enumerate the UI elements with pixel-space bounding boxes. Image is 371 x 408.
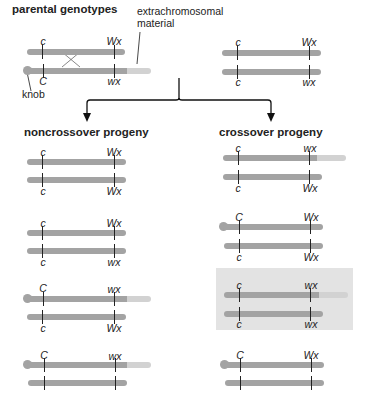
extrachromosomal-segment	[127, 362, 151, 368]
locus-tick	[114, 155, 115, 169]
locus-tick	[42, 155, 43, 169]
chromosome	[224, 243, 324, 249]
locus-tick	[114, 226, 115, 240]
chromosome	[27, 314, 127, 320]
chromosome-body	[28, 380, 127, 386]
chromosome	[23, 362, 153, 368]
locus-tick	[44, 376, 45, 390]
chromosome	[224, 311, 324, 317]
gene-label: c	[236, 319, 241, 330]
chromosome	[222, 69, 322, 75]
chromosome	[27, 230, 127, 236]
chromosome-body	[27, 296, 127, 302]
chromosome-body	[224, 362, 324, 368]
gene-label: c	[235, 77, 240, 88]
gene-label: Wx	[302, 183, 317, 194]
chromosome	[27, 49, 127, 55]
chromosome-body	[27, 68, 127, 74]
connector-lines	[0, 0, 371, 408]
chromosome	[224, 292, 349, 298]
locus-tick	[115, 376, 116, 390]
locus-tick	[311, 376, 312, 390]
extrachromosomal-segment	[319, 292, 348, 298]
locus-tick	[42, 45, 43, 59]
locus-tick	[240, 358, 241, 372]
locus-tick	[240, 376, 241, 390]
chromosome-body	[223, 224, 323, 230]
chromosome	[27, 177, 127, 183]
chromosome	[28, 380, 128, 386]
gene-label: C	[39, 76, 47, 87]
chromosome	[219, 224, 329, 230]
locus-tick	[114, 45, 115, 59]
gene-label: c	[235, 183, 240, 194]
extrachromosomal-segment	[127, 68, 151, 74]
gene-label: c	[40, 323, 45, 334]
locus-tick	[238, 151, 239, 165]
locus-tick	[239, 220, 240, 234]
chromosome	[23, 68, 153, 74]
locus-tick	[239, 288, 240, 302]
chromosome-body	[27, 362, 127, 368]
gene-label: wx	[303, 77, 316, 88]
gene-label: Wx	[106, 186, 121, 197]
gene-label: wx	[108, 257, 121, 268]
gene-label: wx	[305, 319, 318, 330]
locus-tick	[43, 292, 44, 306]
gene-label: Wx	[303, 252, 318, 263]
gene-label: c	[236, 252, 241, 263]
chromosome	[27, 248, 127, 254]
extrachromosomal-segment	[127, 296, 151, 302]
chromosome	[27, 159, 127, 165]
chromosome	[23, 296, 153, 302]
locus-tick	[114, 292, 115, 306]
chromosome	[222, 50, 322, 56]
locus-tick	[310, 220, 311, 234]
gene-label: c	[40, 257, 45, 268]
locus-tick	[42, 226, 43, 240]
locus-tick	[309, 151, 310, 165]
locus-tick	[237, 46, 238, 60]
gene-label: Wx	[106, 323, 121, 334]
locus-tick	[115, 358, 116, 372]
locus-tick	[309, 46, 310, 60]
locus-tick	[310, 288, 311, 302]
gene-label: wx	[108, 76, 121, 87]
chromosome	[225, 380, 325, 386]
chromosome	[220, 362, 330, 368]
extrachromosomal-segment	[317, 155, 346, 161]
chromosome	[223, 155, 348, 161]
locus-tick	[44, 358, 45, 372]
locus-tick	[311, 358, 312, 372]
gene-label: c	[40, 186, 45, 197]
chromosome	[223, 174, 323, 180]
